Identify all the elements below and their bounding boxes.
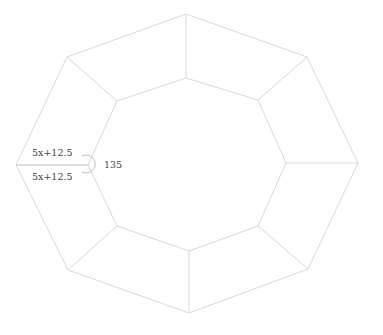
octagon-frame-diagram: 5x+12.5 5x+12.5 135 <box>0 0 383 335</box>
angle-label: 135 <box>104 159 122 170</box>
bottom-segment-label: 5x+12.5 <box>32 171 73 182</box>
top-segment-label: 5x+12.5 <box>32 147 73 158</box>
